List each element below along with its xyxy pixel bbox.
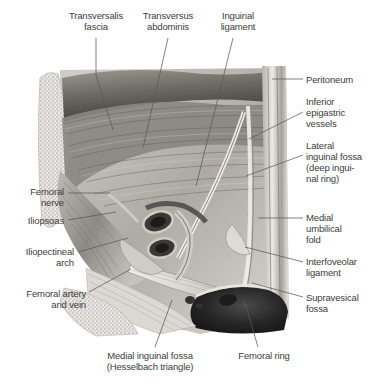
- label-inferior-epigastric-vessels: Inferior epigastric vessels: [306, 96, 370, 129]
- label-iliopsoas: Iliopsoas: [2, 215, 64, 226]
- label-interfoveolar-ligament: Interfoveolar ligament: [306, 256, 372, 278]
- label-femoral-nerve: Femoral nerve: [2, 186, 64, 208]
- label-inguinal-ligament: Inguinal ligament: [206, 10, 270, 32]
- label-iliopectineal-arch: Iliopectineal arch: [2, 246, 74, 268]
- peritoneum-fold: [262, 66, 288, 306]
- label-peritoneum: Peritoneum: [306, 74, 370, 85]
- label-transversalis-fascia: Transversalis fascia: [58, 10, 134, 32]
- anatomical-figure: Transversalis fasciaTransversus abdomini…: [0, 0, 372, 384]
- label-supravesical-fossa: Supravesical fossa: [306, 292, 372, 314]
- label-medial-inguinal-fossa: Medial inguinal fossa (Hesselbach triang…: [86, 350, 214, 372]
- label-femoral-ring: Femoral ring: [228, 350, 300, 361]
- label-medial-umbilical-fold: Medial umbilical fold: [306, 212, 370, 245]
- label-femoral-artery-and-vein: Femoral artery and vein: [0, 288, 86, 310]
- label-transversus-abdominis: Transversus abdominis: [129, 10, 207, 32]
- pelvic-cavity-shadow: [190, 287, 288, 333]
- label-lateral-inguinal-fossa: Lateral inguinal fossa (deep ingui- nal …: [306, 140, 372, 184]
